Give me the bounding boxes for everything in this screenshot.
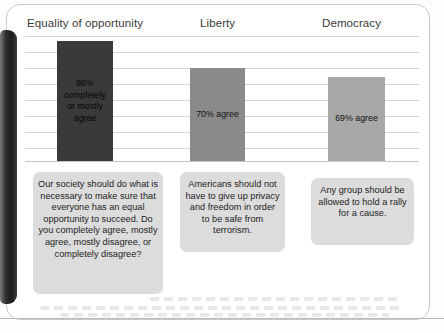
bar-equality-of-opportunity: 86% completely or mostly agree (57, 41, 113, 161)
gridline (25, 36, 419, 37)
column-header-equality-of-opportunity: Equality of opportunity (27, 17, 143, 29)
ghost-text-line (60, 313, 390, 317)
scanned-page: Equality of opportunity Liberty Democrac… (0, 0, 444, 333)
bar-value-label-equality-of-opportunity: 86% completely or mostly agree (57, 78, 113, 124)
column-header-democracy: Democracy (322, 17, 381, 29)
caption-box-equality-of-opportunity: Our society should do what is necessary … (33, 172, 163, 294)
caption-text-equality-of-opportunity: Our society should do what is necessary … (38, 179, 158, 260)
bar-value-label-democracy: 69% agree (333, 113, 380, 125)
ghost-text-line (40, 306, 400, 310)
bar-value-label-liberty: 70% agree (194, 109, 241, 121)
chart-baseline (25, 161, 419, 162)
ghost-text-line (150, 297, 400, 301)
caption-box-democracy: Any group should be allowed to hold a ra… (311, 178, 414, 245)
caption-text-democracy: Any group should be allowed to hold a ra… (316, 185, 409, 220)
bar-liberty: 70% agree (190, 68, 245, 161)
column-header-liberty: Liberty (200, 17, 235, 29)
page-bottom-rule (0, 318, 444, 319)
caption-text-liberty: Americans should not have to give up pri… (185, 179, 280, 237)
book-spine-edge (0, 30, 17, 304)
caption-box-liberty: Americans should not have to give up pri… (180, 172, 285, 252)
bar-democracy: 69% agree (328, 77, 385, 161)
